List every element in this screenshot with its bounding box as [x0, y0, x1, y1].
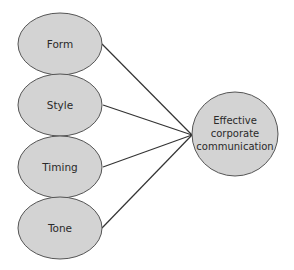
factor-node-style: Style	[18, 74, 102, 136]
factor-node-tone: Tone	[18, 197, 102, 259]
target-label-line-2: corporate	[211, 128, 260, 139]
factor-label: Timing	[41, 161, 77, 173]
connector-tone	[102, 135, 192, 228]
factor-node-form: Form	[18, 13, 102, 75]
factor-label: Tone	[47, 222, 72, 234]
diagram-canvas: Form Style Timing Tone Effective corpora…	[0, 0, 294, 270]
target-label-line-1: Effective	[213, 115, 257, 126]
connector-form	[102, 44, 192, 135]
connector-timing	[103, 135, 192, 167]
target-label-line-3: communication	[196, 141, 273, 152]
connector-lines	[102, 44, 192, 228]
factor-label: Style	[47, 99, 73, 111]
factor-label: Form	[47, 38, 73, 50]
target-node: Effective corporate communication	[192, 92, 278, 176]
factor-node-timing: Timing	[18, 136, 102, 198]
connector-style	[103, 105, 192, 135]
